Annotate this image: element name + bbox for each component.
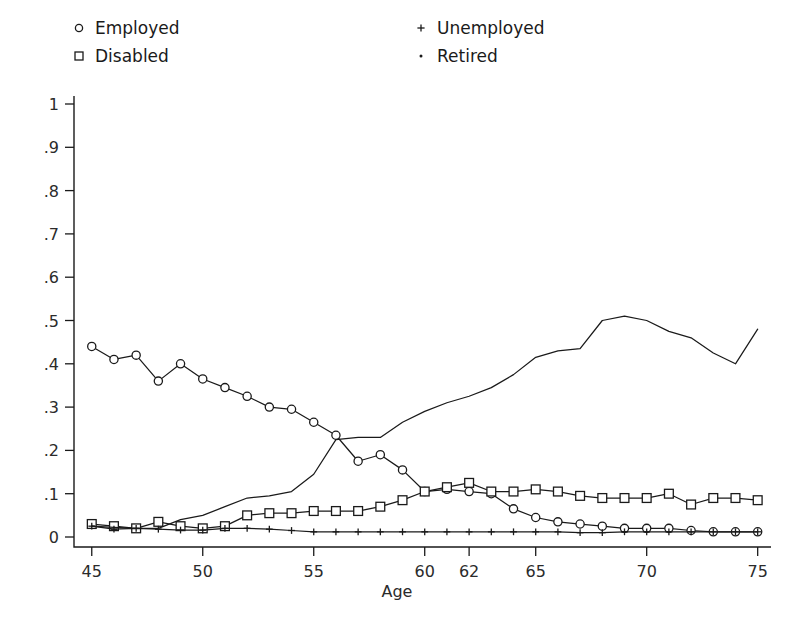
datapoint-disabled-68 bbox=[598, 494, 607, 503]
x-tick-label-1: 50 bbox=[193, 562, 213, 581]
datapoint-disabled-55 bbox=[309, 507, 318, 516]
y-tick-label-6: .6 bbox=[44, 268, 59, 287]
y-tick-label-5: .5 bbox=[44, 312, 59, 331]
datapoint-employed-48 bbox=[154, 377, 162, 385]
datapoint-employed-62 bbox=[465, 487, 473, 495]
datapoint-disabled-58 bbox=[376, 502, 385, 511]
x-tick-label-3: 60 bbox=[415, 562, 435, 581]
legend-label-employed: Employed bbox=[95, 18, 180, 38]
legend-dot-icon bbox=[420, 55, 423, 58]
y-tick-label-1: .1 bbox=[44, 485, 59, 504]
y-tick-label-9: .9 bbox=[44, 138, 59, 157]
legend-item-unemployed: Unemployed bbox=[417, 18, 544, 38]
datapoint-disabled-65 bbox=[531, 485, 540, 494]
datapoint-disabled-66 bbox=[554, 487, 563, 496]
legend-circle-icon bbox=[75, 24, 82, 31]
datapoint-employed-58 bbox=[376, 451, 384, 459]
datapoint-employed-68 bbox=[598, 522, 606, 530]
datapoint-disabled-63 bbox=[487, 487, 496, 496]
datapoint-employed-50 bbox=[199, 375, 207, 383]
chart-figure: EmployedDisabledUnemployedRetired 0.1.2.… bbox=[0, 0, 794, 623]
x-tick-label-2: 55 bbox=[304, 562, 324, 581]
datapoint-disabled-72 bbox=[687, 500, 696, 509]
datapoint-employed-64 bbox=[509, 505, 517, 513]
datapoint-disabled-52 bbox=[243, 511, 252, 520]
datapoint-employed-51 bbox=[221, 384, 229, 392]
datapoint-employed-55 bbox=[310, 418, 318, 426]
datapoint-disabled-62 bbox=[465, 478, 474, 487]
datapoint-disabled-53 bbox=[265, 509, 274, 518]
y-tick-label-7: .7 bbox=[44, 225, 59, 244]
legend-label-disabled: Disabled bbox=[95, 46, 169, 66]
y-tick-label-8: .8 bbox=[44, 182, 59, 201]
datapoint-employed-53 bbox=[265, 403, 273, 411]
datapoint-employed-49 bbox=[176, 360, 184, 368]
legend-label-retired: Retired bbox=[437, 46, 498, 66]
y-tick-label-3: .3 bbox=[44, 398, 59, 417]
legend-label-unemployed: Unemployed bbox=[437, 18, 544, 38]
x-tick-label-7: 75 bbox=[748, 562, 768, 581]
y-tick-label-4: .4 bbox=[44, 355, 59, 374]
datapoint-employed-59 bbox=[398, 466, 406, 474]
datapoint-employed-45 bbox=[88, 342, 96, 350]
datapoint-employed-56 bbox=[332, 431, 340, 439]
datapoint-employed-65 bbox=[532, 513, 540, 521]
x-tick-label-0: 45 bbox=[82, 562, 102, 581]
datapoint-disabled-71 bbox=[664, 489, 673, 498]
x-axis-title: Age bbox=[382, 582, 413, 601]
datapoint-disabled-56 bbox=[332, 507, 341, 516]
datapoint-disabled-61 bbox=[443, 483, 452, 492]
datapoint-employed-57 bbox=[354, 457, 362, 465]
datapoint-disabled-69 bbox=[620, 494, 629, 503]
legend-square-icon bbox=[75, 52, 83, 60]
x-tick-label-4: 62 bbox=[459, 562, 479, 581]
datapoint-employed-54 bbox=[287, 405, 295, 413]
datapoint-employed-67 bbox=[576, 520, 584, 528]
x-tick-label-6: 70 bbox=[637, 562, 657, 581]
datapoint-employed-66 bbox=[554, 518, 562, 526]
x-tick-label-5: 65 bbox=[526, 562, 546, 581]
datapoint-disabled-57 bbox=[354, 507, 363, 516]
datapoint-disabled-70 bbox=[642, 494, 651, 503]
datapoint-disabled-54 bbox=[287, 509, 296, 518]
y-tick-label-10: 1 bbox=[49, 95, 59, 114]
datapoint-employed-47 bbox=[132, 351, 140, 359]
datapoint-disabled-60 bbox=[420, 487, 429, 496]
datapoint-employed-52 bbox=[243, 392, 251, 400]
datapoint-disabled-48 bbox=[154, 517, 163, 526]
y-tick-label-2: .2 bbox=[44, 441, 59, 460]
datapoint-disabled-75 bbox=[753, 496, 762, 505]
datapoint-disabled-64 bbox=[509, 487, 518, 496]
y-tick-label-0: 0 bbox=[49, 528, 59, 547]
datapoint-disabled-74 bbox=[731, 494, 740, 503]
datapoint-employed-46 bbox=[110, 355, 118, 363]
datapoint-disabled-67 bbox=[576, 491, 585, 500]
chart-svg: EmployedDisabledUnemployedRetired 0.1.2.… bbox=[0, 0, 794, 623]
datapoint-disabled-73 bbox=[709, 494, 718, 503]
datapoint-disabled-59 bbox=[398, 496, 407, 505]
